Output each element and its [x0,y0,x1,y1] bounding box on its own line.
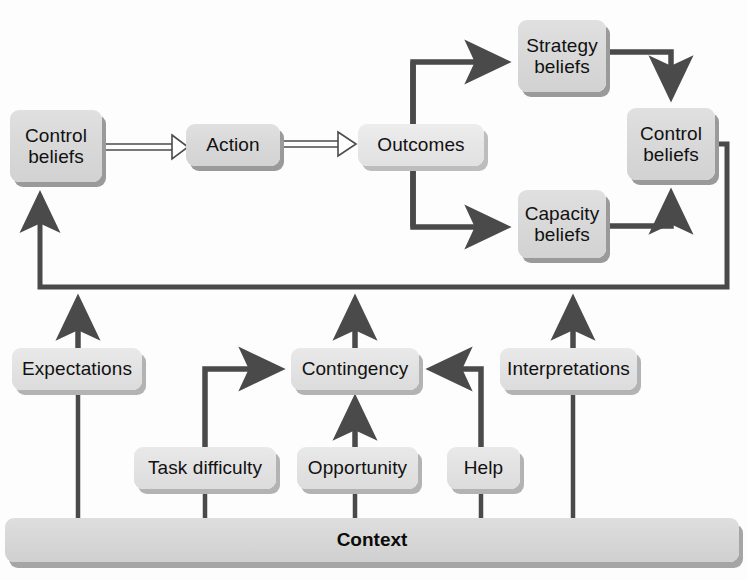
node-action[interactable]: Action [186,124,280,166]
edge-action-to-outcomes [284,132,356,156]
node-help[interactable]: Help [447,447,520,489]
node-interpretations[interactable]: Interpretations [500,348,637,390]
node-label: Control beliefs [640,123,702,166]
node-opportunity[interactable]: Opportunity [297,447,418,489]
node-task-difficulty[interactable]: Task difficulty [134,447,276,489]
node-control-beliefs-left[interactable]: Control beliefs [10,110,102,182]
connector-layer [0,0,747,580]
node-label: Interpretations [507,358,630,379]
node-label: Opportunity [308,457,407,478]
node-label: Control beliefs [25,125,87,168]
node-control-beliefs-right[interactable]: Control beliefs [627,108,715,180]
node-label: Capacity beliefs [525,203,600,246]
node-label: Task difficulty [148,457,262,478]
node-label: Action [206,134,259,155]
node-capacity-beliefs[interactable]: Capacity beliefs [518,190,606,258]
node-contingency[interactable]: Contingency [291,348,419,390]
edge-strategy-to-control [610,52,671,96]
diagram-canvas: Control beliefs Action Outcomes Strategy… [0,0,747,580]
node-label: Contingency [302,358,409,379]
node-label: Expectations [22,358,132,379]
node-outcomes[interactable]: Outcomes [358,124,484,166]
edge-task-difficulty-to-contingency [205,369,279,447]
edge-help-to-contingency [432,369,481,447]
node-expectations[interactable]: Expectations [12,348,142,390]
node-strategy-beliefs[interactable]: Strategy beliefs [518,20,606,92]
context-label: Context [337,529,408,551]
node-label: Strategy beliefs [526,35,598,78]
node-label: Help [464,457,503,478]
edge-control-to-action [105,135,188,159]
edge-capacity-to-control [610,194,671,226]
node-label: Outcomes [377,134,464,155]
node-context-bar[interactable]: Context [5,518,739,562]
